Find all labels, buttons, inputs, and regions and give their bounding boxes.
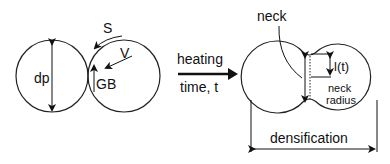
neck-pointer-line [279,26,302,78]
neck-label: neck [257,8,288,24]
length-label: l(t) [334,59,349,74]
neck-radius-label-line1: neck [328,82,352,94]
sintered-particles: neck l(t) neck radius densification [241,8,377,152]
heating-label: heating [177,51,223,67]
time-label: time, t [180,79,218,95]
arrow-right-icon [228,68,238,80]
surface-diffusion-arrow-icon [95,36,122,48]
initial-particles: dp S V GB [16,20,160,112]
process-arrow: heating time, t [177,51,238,95]
densification-label: densification [270,130,348,146]
surface-label: S [103,20,112,36]
neck-radius-label-line2: radius [326,94,356,106]
diameter-label: dp [34,70,50,86]
sintering-diagram: dp S V GB heating time, t neck l(t) ne [0,0,390,164]
grain-boundary-label: GB [96,76,116,92]
diagram-canvas: dp S V GB heating time, t neck l(t) ne [0,0,390,164]
neck-bottom [304,99,315,101]
volume-label: V [120,45,130,61]
